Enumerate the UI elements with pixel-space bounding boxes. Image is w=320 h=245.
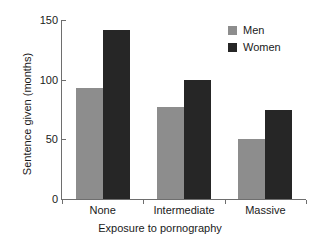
bar-none-women <box>103 30 130 199</box>
x-category-label-none: None <box>90 204 116 216</box>
x-axis-title: Exposure to pornography <box>0 222 320 234</box>
legend: Men Women <box>228 22 281 56</box>
x-axis-line <box>61 199 306 200</box>
bar-none-men <box>76 88 103 199</box>
legend-label-men: Men <box>243 25 264 36</box>
y-axis-title: Sentence given (months) <box>21 24 33 204</box>
bar-massive-women <box>265 110 292 200</box>
legend-swatch-men-icon <box>228 26 237 35</box>
legend-item-women: Women <box>228 39 281 56</box>
x-tick-mark <box>143 200 144 204</box>
x-tick-mark <box>225 200 226 204</box>
legend-swatch-women-icon <box>228 43 237 52</box>
x-category-label-intermediate: Intermediate <box>153 204 214 216</box>
bar-massive-men <box>238 139 265 199</box>
legend-item-men: Men <box>228 22 281 39</box>
x-category-label-massive: Massive <box>245 204 285 216</box>
bar-chart-figure: 050100150 NoneIntermediateMassive Exposu… <box>0 0 320 245</box>
x-tick-mark <box>306 200 307 204</box>
legend-label-women: Women <box>243 42 281 53</box>
bar-intermediate-women <box>184 80 211 199</box>
x-tick-mark <box>62 200 63 204</box>
bar-intermediate-men <box>157 107 184 199</box>
